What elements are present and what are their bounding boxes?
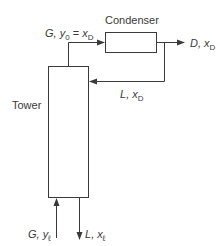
liquid-bottom-label: L, xℓ (85, 228, 105, 245)
condenser-label: Condenser (105, 14, 159, 26)
tower-label: Tower (12, 99, 41, 111)
vapor-top-line (69, 43, 105, 67)
tower-column (49, 67, 89, 198)
reflux-label: L, xD (120, 88, 144, 105)
vapor-top-label: G, y0 = xD (45, 27, 93, 44)
flow-diagram (0, 0, 220, 246)
condenser-box (106, 33, 157, 53)
vapor-bottom-label: G, yℓ (28, 228, 51, 245)
distillate-label: D, xD (190, 37, 215, 54)
